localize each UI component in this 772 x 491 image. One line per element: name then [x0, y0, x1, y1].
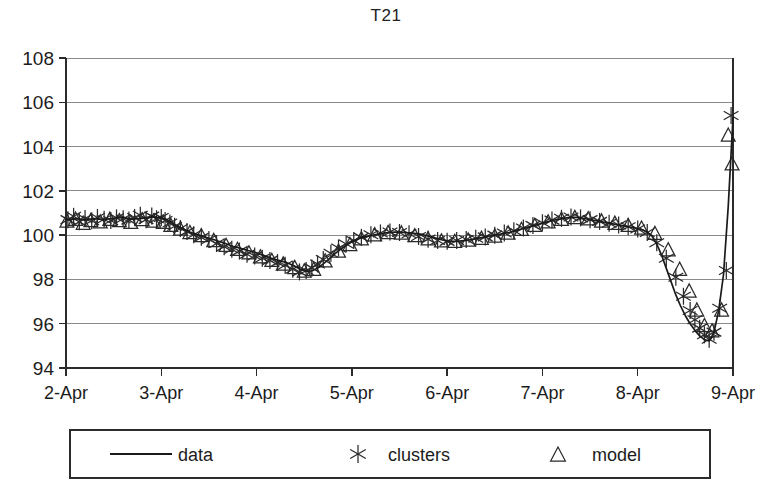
- x-axis-ticks: 2-Apr3-Apr4-Apr5-Apr6-Apr7-Apr8-Apr9-Apr: [44, 368, 755, 403]
- cluster-marker: [719, 262, 734, 279]
- model-marker: [648, 226, 662, 239]
- triangle-icon: [551, 447, 566, 461]
- cluster-marker: [724, 107, 739, 124]
- model-marker: [725, 157, 739, 170]
- chart-svg: 949698100102104106108 2-Apr3-Apr4-Apr5-A…: [0, 0, 772, 491]
- y-axis-ticks: 949698100102104106108: [22, 48, 66, 379]
- y-tick-label: 94: [33, 358, 55, 379]
- y-tick-label: 96: [33, 314, 54, 335]
- x-tick-label: 4-Apr: [235, 383, 279, 403]
- y-tick-label: 102: [22, 181, 54, 202]
- y-tick-label: 100: [22, 225, 54, 246]
- chart-legend: dataclustersmodel: [70, 430, 710, 478]
- x-tick-label: 2-Apr: [44, 383, 88, 403]
- legend-entry-model[interactable]: model: [551, 445, 641, 465]
- series-clusters-markers: [61, 107, 739, 348]
- y-tick-label: 106: [22, 92, 54, 113]
- y-tick-label: 98: [33, 269, 54, 290]
- x-tick-label: 9-Apr: [711, 383, 755, 403]
- x-tick-label: 8-Apr: [616, 383, 660, 403]
- legend-label: clusters: [388, 445, 450, 465]
- model-marker: [673, 262, 687, 275]
- legend-entry-clusters[interactable]: clusters: [350, 445, 450, 465]
- x-tick-label: 6-Apr: [425, 383, 469, 403]
- chart-container: T21 949698100102104106108 2-Apr3-Apr4-Ap…: [0, 0, 772, 491]
- y-tick-label: 108: [22, 48, 54, 69]
- x-tick-label: 7-Apr: [520, 383, 564, 403]
- legend-entry-data[interactable]: data: [110, 445, 214, 465]
- gridlines: [66, 58, 733, 368]
- axis-lines: [66, 58, 733, 368]
- legend-label: data: [178, 445, 214, 465]
- asterisk-icon: [350, 445, 366, 463]
- x-tick-label: 3-Apr: [139, 383, 183, 403]
- cluster-marker: [668, 269, 683, 286]
- y-tick-label: 104: [22, 137, 54, 158]
- legend-label: model: [592, 445, 641, 465]
- x-tick-label: 5-Apr: [330, 383, 374, 403]
